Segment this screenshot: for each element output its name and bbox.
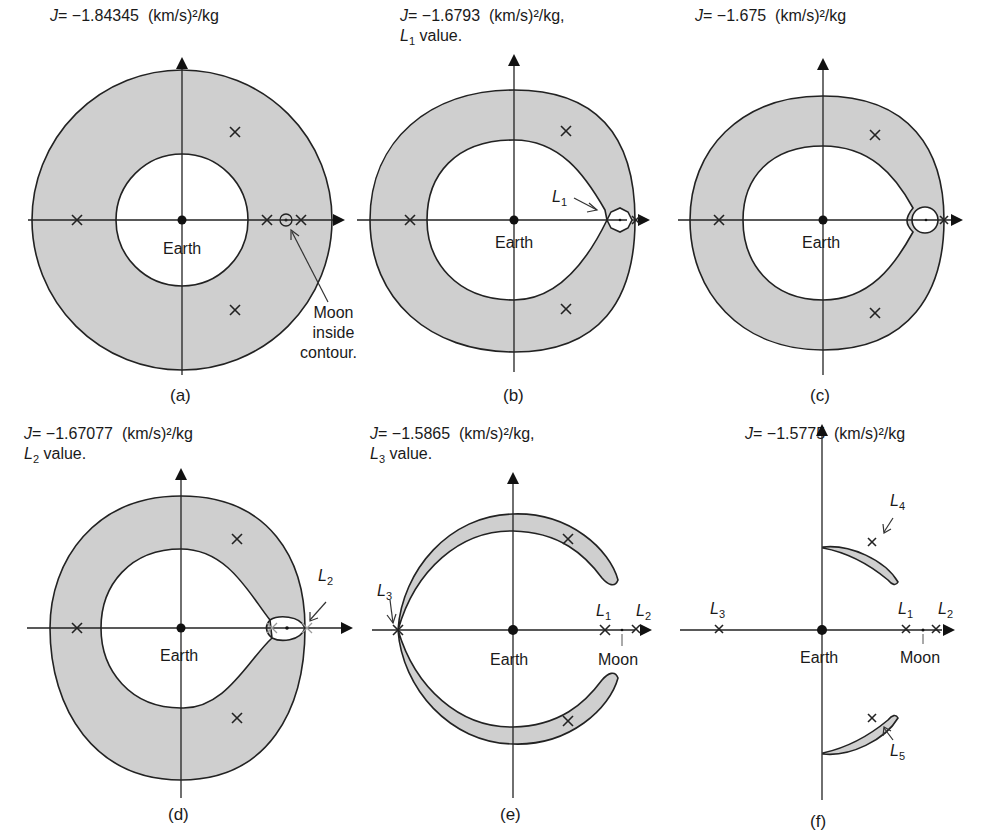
l4-label: L4 xyxy=(890,492,905,512)
panel-a: J= −1.84345 (km/s)²/kg Earth Moon inside… xyxy=(0,0,345,420)
y-axis-arrow-icon xyxy=(507,472,519,484)
l5-label: L5 xyxy=(890,742,905,762)
earth-dot xyxy=(817,625,827,635)
panel-f: J= −1.5775 (km/s)²/kg Earth Moon L3 L1 L… xyxy=(680,420,983,838)
moon-dot xyxy=(925,219,928,222)
panel-e-diagram xyxy=(360,420,680,838)
caption-b: (b) xyxy=(503,386,524,406)
l5-contour xyxy=(823,716,898,755)
earth-dot xyxy=(510,216,519,225)
lower-horseshoe-contour xyxy=(398,630,618,744)
y-axis-arrow-icon xyxy=(176,57,188,69)
earth-label: Earth xyxy=(490,651,528,669)
caption-e: (e) xyxy=(500,805,521,825)
panel-f-diagram xyxy=(680,420,983,838)
y-axis-arrow-icon xyxy=(175,468,187,480)
l2-label: L2 xyxy=(636,602,651,622)
x-axis-arrow-icon xyxy=(341,622,353,634)
panel-c: J= −1.675 (km/s)²/kg Earth (c) xyxy=(660,0,983,420)
moon-dot xyxy=(619,219,622,222)
panel-c-diagram xyxy=(660,0,983,420)
x-axis-arrow-icon xyxy=(640,624,652,636)
panel-d: J= −1.67077 (km/s)²/kg L2 value. Earth L… xyxy=(0,420,360,838)
l1-marker xyxy=(902,625,910,633)
l2-marker xyxy=(632,625,640,633)
caption-d: (d) xyxy=(168,805,189,825)
earth-label: Earth xyxy=(802,234,840,252)
l3-label: L3 xyxy=(710,600,725,620)
earth-label: Earth xyxy=(160,647,198,665)
panel-e: J= −1.5865 (km/s)²/kg, L3 value. Earth M… xyxy=(360,420,680,838)
l4-marker xyxy=(868,538,876,546)
l3-marker xyxy=(715,625,723,633)
panel-d-diagram xyxy=(0,420,360,838)
earth-dot xyxy=(819,216,828,225)
l2-label: L2 xyxy=(938,600,953,620)
earth-label: Earth xyxy=(800,649,838,667)
panel-b: J= −1.6793 (km/s)²/kg, L1 value. Earth L… xyxy=(345,0,660,420)
moon-label: Moon xyxy=(900,649,940,667)
panel-b-diagram xyxy=(345,0,660,420)
l2-label: L2 xyxy=(318,567,333,587)
upper-horseshoe-contour xyxy=(398,514,618,630)
earth-dot xyxy=(178,216,187,225)
x-axis-arrow-icon xyxy=(333,214,345,226)
y-axis-arrow-icon xyxy=(816,424,828,436)
y-axis-arrow-icon xyxy=(508,54,520,66)
caption-f: (f) xyxy=(810,812,826,832)
moon-dot xyxy=(621,629,624,632)
l5-marker xyxy=(868,714,876,722)
caption-c: (c) xyxy=(810,386,830,406)
l2-marker xyxy=(932,625,940,633)
earth-label: Earth xyxy=(163,240,201,258)
l1-label: L1 xyxy=(552,188,567,208)
moon-dot xyxy=(285,626,289,630)
x-axis-arrow-icon xyxy=(951,214,963,226)
moon-label: Moon xyxy=(598,651,638,669)
earth-dot xyxy=(177,624,186,633)
panel-a-diagram xyxy=(0,0,345,420)
l4-contour xyxy=(823,547,898,585)
moon-dot xyxy=(922,629,925,632)
l3-label: L3 xyxy=(377,582,392,602)
y-axis-arrow-icon xyxy=(817,58,829,70)
l1-label: L1 xyxy=(596,602,611,622)
earth-label: Earth xyxy=(495,234,533,252)
l1-label: L1 xyxy=(898,600,913,620)
caption-a: (a) xyxy=(170,386,191,406)
x-axis-arrow-icon xyxy=(943,624,955,636)
earth-dot xyxy=(508,625,518,635)
